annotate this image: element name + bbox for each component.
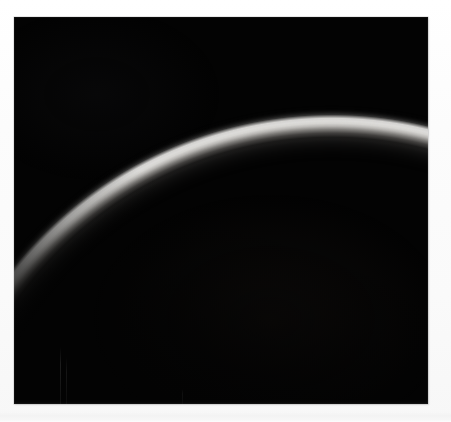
crescent-limb-photo — [14, 17, 428, 404]
emulsion-scratch — [66, 357, 67, 404]
emulsion-scratch — [182, 389, 183, 404]
limb-outer-bloom — [14, 113, 428, 404]
emulsion-scratch — [60, 347, 61, 404]
crescent-arc — [14, 17, 428, 404]
screenshot-viewport: A dark astronomical photograph showing a… — [0, 0, 451, 422]
page-bottom-band — [0, 412, 451, 422]
